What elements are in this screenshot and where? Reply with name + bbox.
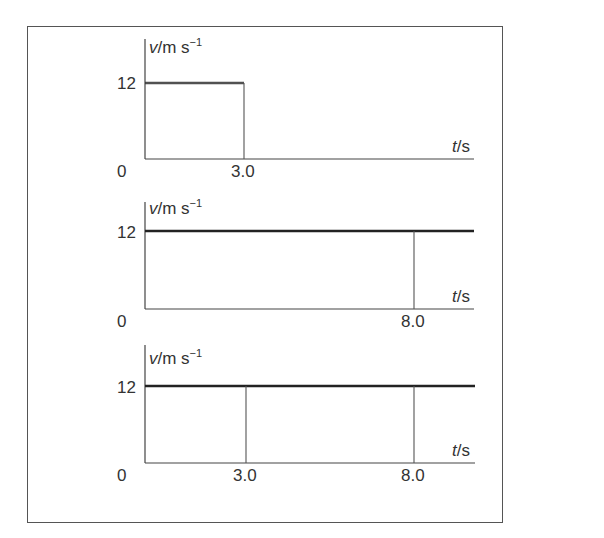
x-tick-3: 3.0	[233, 466, 257, 485]
velocity-time-graphs: v/m s−1 12 0 3.0 t/s v/m s−1 12 0 8.0 t/…	[0, 0, 604, 538]
x-axis-label: t/s	[452, 137, 470, 156]
origin-label: 0	[117, 466, 126, 485]
x-tick-3: 3.0	[231, 162, 255, 181]
y-tick-12: 12	[117, 74, 136, 93]
origin-label: 0	[117, 162, 126, 181]
x-axis-label: t/s	[452, 441, 470, 460]
x-axis-label: t/s	[452, 287, 470, 306]
origin-label: 0	[117, 312, 126, 331]
x-tick-8: 8.0	[401, 312, 425, 331]
y-axis-label: v/m s−1	[149, 197, 202, 218]
y-axis-label: v/m s−1	[149, 347, 202, 368]
graph-panel-3: v/m s−1 12 0 3.0 8.0 t/s	[117, 345, 475, 485]
y-tick-12: 12	[117, 223, 136, 242]
x-tick-8: 8.0	[401, 466, 425, 485]
y-tick-12: 12	[117, 378, 136, 397]
y-axis-label: v/m s−1	[149, 36, 202, 57]
graph-panel-2: v/m s−1 12 0 8.0 t/s	[117, 197, 474, 331]
graph-panel-1: v/m s−1 12 0 3.0 t/s	[117, 36, 474, 181]
